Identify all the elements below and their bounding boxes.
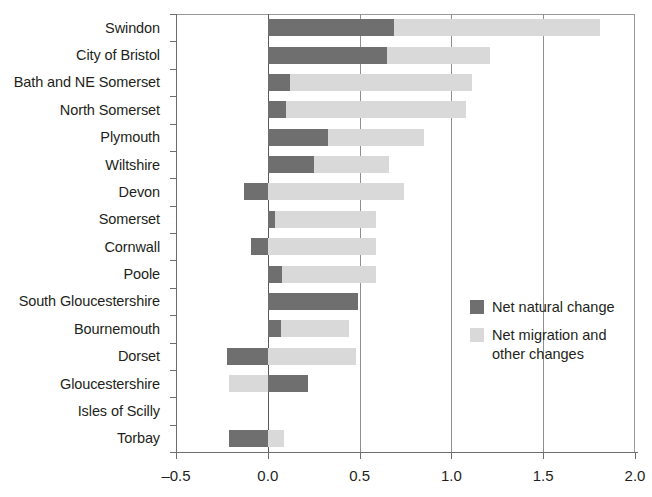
plot-area: –0.50.00.51.01.52.0	[176, 14, 635, 452]
category-label: Plymouth	[100, 129, 160, 145]
category-label: South Gloucestershire	[19, 293, 160, 309]
legend-swatch-icon-dark	[470, 300, 484, 314]
bar-segment-net-migration	[268, 348, 356, 365]
plot-frame-top	[176, 14, 635, 15]
category-label: Cornwall	[104, 239, 160, 255]
bar-segment-net-natural-change	[268, 156, 314, 173]
plot-frame-right	[634, 14, 635, 452]
gridline	[543, 14, 544, 452]
bar-segment-net-natural-change	[268, 19, 395, 36]
legend-swatch-icon-light	[470, 328, 484, 342]
category-tick	[170, 425, 176, 426]
bar-segment-net-migration	[314, 156, 389, 173]
bar-segment-net-natural-change	[268, 320, 281, 337]
bar-segment-net-natural-change	[268, 293, 358, 310]
legend-label: Net migration and other changes	[492, 326, 640, 364]
category-tick	[170, 151, 176, 152]
category-label: Wiltshire	[105, 157, 160, 173]
bar-segment-net-migration	[282, 266, 376, 283]
bar-segment-net-natural-change	[227, 348, 267, 365]
value-tick	[543, 452, 544, 459]
legend-label: Net natural change	[492, 298, 615, 317]
bar-segment-net-natural-change	[229, 430, 268, 447]
category-label: Devon	[119, 184, 160, 200]
category-label: Gloucestershire	[60, 376, 160, 392]
category-label: Bournemouth	[74, 321, 160, 337]
value-tick-label: 0.5	[349, 467, 370, 484]
legend-item-net-natural-change: Net natural change	[470, 298, 640, 317]
bar-segment-net-migration	[394, 19, 600, 36]
bar-segment-net-migration	[275, 211, 376, 228]
category-tick	[170, 69, 176, 70]
category-tick	[170, 315, 176, 316]
value-tick-label: 1.5	[533, 467, 554, 484]
value-axis-line	[170, 452, 638, 453]
category-label: Torbay	[117, 430, 160, 446]
bar-segment-net-migration	[387, 47, 490, 64]
bar-segment-net-natural-change	[268, 129, 329, 146]
bar-segment-net-natural-change	[268, 47, 387, 64]
bar-segment-net-migration	[268, 430, 285, 447]
category-label: Poole	[123, 266, 160, 282]
category-tick	[170, 206, 176, 207]
value-tick-label: 2.0	[625, 467, 646, 484]
bar-segment-net-natural-change	[251, 238, 268, 255]
value-tick-label: 1.0	[441, 467, 462, 484]
category-tick	[170, 96, 176, 97]
bar-segment-net-migration	[229, 375, 268, 392]
value-tick-label: –0.5	[161, 467, 190, 484]
category-tick	[170, 124, 176, 125]
category-tick	[170, 233, 176, 234]
value-tick	[451, 452, 452, 459]
category-label: Dorset	[118, 348, 160, 364]
value-tick	[268, 452, 269, 459]
bar-segment-net-natural-change	[244, 183, 268, 200]
category-tick	[170, 343, 176, 344]
value-tick	[360, 452, 361, 459]
bar-segment-net-natural-change	[268, 101, 286, 118]
category-tick	[170, 288, 176, 289]
category-tick	[170, 397, 176, 398]
category-label: Isles of Scilly	[78, 403, 160, 419]
category-tick	[170, 260, 176, 261]
bar-segment-net-migration	[286, 101, 466, 118]
bar-segment-net-migration	[328, 129, 423, 146]
bar-segment-net-migration	[268, 183, 404, 200]
bar-segment-net-migration	[281, 320, 349, 337]
category-tick	[170, 178, 176, 179]
value-tick	[176, 452, 177, 459]
legend-item-net-migration-and-other-changes: Net migration and other changes	[470, 326, 640, 364]
category-tick	[170, 14, 176, 15]
category-axis-labels: SwindonCity of BristolBath and NE Somers…	[0, 14, 168, 452]
category-axis-line	[176, 14, 177, 452]
bar-segment-net-natural-change	[268, 266, 283, 283]
bar-segment-net-natural-change	[268, 375, 308, 392]
value-tick-label: 0.0	[257, 467, 278, 484]
bar-segment-net-migration	[268, 238, 376, 255]
category-label: City of Bristol	[76, 47, 160, 63]
chart-legend: Net natural change Net migration and oth…	[470, 298, 640, 373]
category-label: Somerset	[99, 211, 160, 227]
category-label: Swindon	[105, 20, 160, 36]
bar-segment-net-natural-change	[268, 74, 290, 91]
value-tick	[635, 452, 636, 459]
category-label: Bath and NE Somerset	[14, 74, 160, 90]
category-label: North Somerset	[60, 102, 160, 118]
category-tick	[170, 41, 176, 42]
bar-segment-net-natural-change	[268, 211, 275, 228]
category-tick	[170, 370, 176, 371]
population-change-chart: SwindonCity of BristolBath and NE Somers…	[0, 0, 652, 497]
bar-segment-net-migration	[290, 74, 472, 91]
